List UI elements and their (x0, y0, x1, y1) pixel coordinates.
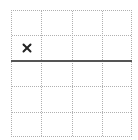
grid-column-line (41, 11, 42, 136)
grid-row-line (12, 86, 131, 87)
grid-diagram (11, 10, 132, 137)
grid-row-line (12, 112, 131, 113)
threshold-line (11, 60, 132, 62)
x-mark-icon (22, 43, 32, 53)
grid-column-line (72, 11, 73, 136)
grid-row-line (12, 35, 131, 36)
grid-column-line (102, 11, 103, 136)
